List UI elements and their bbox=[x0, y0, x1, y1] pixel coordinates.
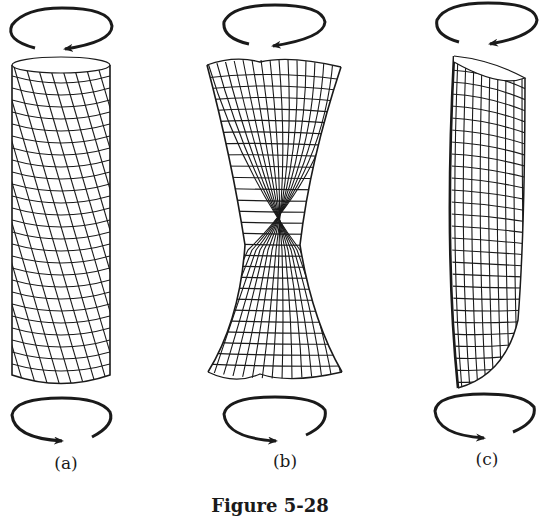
panel-c-bent-cylinder bbox=[435, 3, 537, 438]
rotation-arrow-bottom-b-icon bbox=[224, 397, 325, 441]
panel-label-c: (c) bbox=[476, 449, 499, 469]
panel-label-a: (a) bbox=[54, 453, 77, 473]
panel-a-cylinder bbox=[0, 8, 208, 441]
rotation-arrow-bottom-c-icon bbox=[435, 394, 534, 438]
rotation-arrow-top-c-icon bbox=[437, 3, 537, 44]
rotation-arrow-bottom-a-icon bbox=[12, 398, 111, 441]
rotation-arrow-top-a-icon bbox=[11, 8, 112, 49]
figure-caption: Figure 5-28 bbox=[211, 495, 329, 516]
panel-b-hourglass bbox=[196, 5, 345, 441]
panel-label-b: (b) bbox=[273, 451, 297, 471]
figure-canvas bbox=[0, 0, 540, 522]
rotation-arrow-top-b-icon bbox=[224, 5, 325, 46]
